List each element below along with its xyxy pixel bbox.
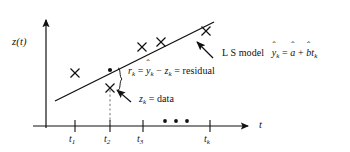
y-axis-label: z(t) (12, 37, 27, 48)
ls-residual-figure: z(t) t t1 t2 t3 tk L S model yk=a+btk rk… (0, 0, 350, 152)
data-cross-5 (202, 27, 211, 36)
data-annotation: zk=data (139, 94, 174, 106)
ls-model-equals: = (280, 47, 291, 58)
residual-annotation: rk=yk−zk=residual (128, 66, 215, 78)
ls-model-text: L S model (222, 47, 264, 58)
ls-model-bhat: b (306, 48, 311, 58)
residual-equals-2: = (172, 65, 183, 76)
tick-label-t2-sub: 2 (107, 138, 111, 146)
ls-model-ahat: a (290, 48, 295, 58)
residual-word: residual (182, 65, 214, 76)
ls-fit-line (55, 22, 214, 101)
tick-label-t3-sub: 3 (140, 138, 144, 146)
residual-brace (118, 68, 122, 90)
ls-model-plus: + (295, 47, 306, 58)
fitted-value-dot (108, 68, 112, 72)
data-cross-1 (71, 69, 80, 78)
data-equals: = (146, 93, 157, 104)
residual-yhat: y (146, 66, 151, 76)
data-cross-4 (157, 38, 166, 47)
tick-label-tk-sub: k (207, 138, 210, 146)
residual-minus: − (154, 65, 165, 76)
data-cross-3 (138, 43, 147, 52)
residual-equals-1: = (135, 65, 146, 76)
data-word: data (157, 93, 174, 104)
ls-model-annotation: L S model yk=a+btk (222, 48, 317, 60)
tick-label-t1: t1 (69, 134, 75, 146)
ls-model-leader-arrow (197, 42, 213, 58)
tick-label-tk: tk (204, 134, 210, 146)
x-axis-label: t (259, 120, 262, 131)
ls-model-t-sub: k (314, 52, 317, 60)
tick-label-t1-sub: 1 (72, 138, 76, 146)
ls-model-yhat: y (272, 48, 277, 58)
data-leader-arrow (117, 90, 131, 102)
tick-label-t3: t3 (137, 134, 143, 146)
axis-ellipsis-dots (163, 119, 189, 123)
tick-label-t2: t2 (104, 134, 110, 146)
